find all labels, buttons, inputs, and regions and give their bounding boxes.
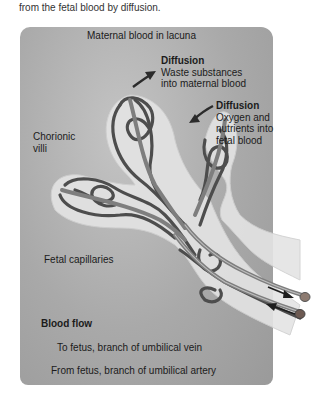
diffusion-out-arrow-icon bbox=[133, 71, 156, 87]
legend-umbilical-artery: From fetus, branch of umbilical artery bbox=[51, 365, 216, 377]
diffusion-waste-title: Diffusion bbox=[161, 55, 246, 67]
diffusion-waste-line2: into maternal blood bbox=[161, 78, 246, 89]
diffusion-in-arrow-icon bbox=[189, 106, 213, 123]
chorionic-villi-line1: Chorionic bbox=[33, 131, 75, 142]
blood-flow-legend-title: Blood flow bbox=[41, 318, 92, 330]
diffusion-oxygen-line2: nutrients into bbox=[216, 123, 273, 134]
fetal-capillaries-label: Fetal capillaries bbox=[44, 254, 113, 266]
diffusion-oxygen-line3: fetal blood bbox=[216, 135, 262, 146]
legend-umbilical-vein: To fetus, branch of umbilical vein bbox=[57, 342, 202, 354]
chorionic-villi-label: Chorionic villi bbox=[33, 131, 75, 154]
diffusion-oxygen-label: Diffusion Oxygen and nutrients into feta… bbox=[216, 100, 273, 146]
diffusion-oxygen-title: Diffusion bbox=[216, 100, 273, 112]
diffusion-waste-line1: Waste substances bbox=[161, 67, 242, 78]
maternal-blood-label: Maternal blood in lacuna bbox=[87, 30, 196, 42]
diffusion-waste-label: Diffusion Waste substances into maternal… bbox=[161, 55, 246, 90]
diffusion-oxygen-line1: Oxygen and bbox=[216, 112, 270, 123]
chorionic-villi-line2: villi bbox=[33, 143, 47, 154]
